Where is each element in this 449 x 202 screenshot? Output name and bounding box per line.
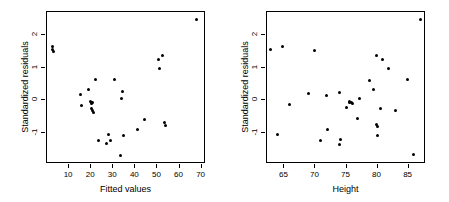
x-tick-label: 50 (152, 170, 161, 179)
y-tick-mark (41, 99, 45, 100)
y-tick-label: 2 (250, 28, 259, 40)
data-point (376, 134, 379, 137)
x-tick-mark (134, 164, 135, 168)
data-point (351, 102, 354, 105)
data-point (419, 18, 422, 21)
x-tick-label: 30 (108, 170, 117, 179)
y-tick-mark (261, 67, 265, 68)
data-point (91, 101, 94, 104)
y-tick-label: -1 (30, 126, 39, 138)
data-point (97, 139, 100, 142)
x-tick-label: 10 (64, 170, 73, 179)
residual-diagnostics-figure: 10203040506070 210-1 Fitted values Stand… (0, 0, 449, 202)
data-point (164, 124, 167, 127)
y-tick-mark (41, 132, 45, 133)
x-tick-mark (314, 164, 315, 168)
panel-fitted-values: 10203040506070 210-1 Fitted values Stand… (0, 0, 225, 202)
data-point (113, 78, 116, 81)
data-point (379, 107, 382, 110)
y-tick-label: 2 (30, 28, 39, 40)
data-point (313, 49, 316, 52)
x-tick-mark (283, 164, 284, 168)
data-point (158, 67, 161, 70)
data-point (307, 92, 310, 95)
data-point (394, 109, 397, 112)
x-tick-label: 60 (174, 170, 183, 179)
data-point (80, 104, 83, 107)
x-tick-label: 65 (279, 170, 288, 179)
x-tick-mark (408, 164, 409, 168)
x-tick-mark (112, 164, 113, 168)
x-tick-label: 85 (403, 170, 412, 179)
x-tick-mark (90, 164, 91, 168)
x-tick-label: 75 (341, 170, 350, 179)
data-point (276, 133, 279, 136)
data-point (94, 78, 97, 81)
x-tick-mark (377, 164, 378, 168)
plot-frame-left (46, 11, 205, 163)
data-point (87, 88, 90, 91)
x-tick-mark (156, 164, 157, 168)
x-tick-label: 80 (372, 170, 381, 179)
y-axis-title-left: Standardized residuals (20, 41, 30, 133)
data-point (120, 97, 123, 100)
y-axis-title-right: Standardized residuals (240, 41, 250, 133)
data-point (376, 125, 379, 128)
x-tick-label: 20 (86, 170, 95, 179)
data-point (157, 58, 160, 61)
y-tick-mark (261, 34, 265, 35)
x-tick-mark (68, 164, 69, 168)
x-axis-title-right: Height (332, 184, 358, 194)
x-tick-mark (346, 164, 347, 168)
panel-height: 6570758085 210-1 Height Standardized res… (225, 0, 449, 202)
data-point (339, 138, 342, 141)
data-point (338, 143, 341, 146)
plot-frame-right (266, 11, 425, 163)
y-tick-mark (261, 99, 265, 100)
y-tick-label: 0 (250, 93, 259, 105)
x-tick-label: 40 (130, 170, 139, 179)
x-tick-label: 70 (196, 170, 205, 179)
y-tick-mark (261, 132, 265, 133)
y-tick-label: 0 (30, 93, 39, 105)
data-point (338, 91, 341, 94)
y-tick-label: 1 (250, 61, 259, 73)
y-tick-mark (41, 67, 45, 68)
data-point (195, 18, 198, 21)
data-point (92, 111, 95, 114)
x-axis-title-left: Fitted values (100, 184, 151, 194)
x-tick-mark (201, 164, 202, 168)
data-point (358, 97, 361, 100)
data-point (372, 88, 375, 91)
y-tick-label: -1 (250, 126, 259, 138)
data-point (109, 139, 112, 142)
x-tick-label: 70 (310, 170, 319, 179)
y-tick-label: 1 (30, 61, 39, 73)
x-tick-mark (179, 164, 180, 168)
y-tick-mark (41, 34, 45, 35)
